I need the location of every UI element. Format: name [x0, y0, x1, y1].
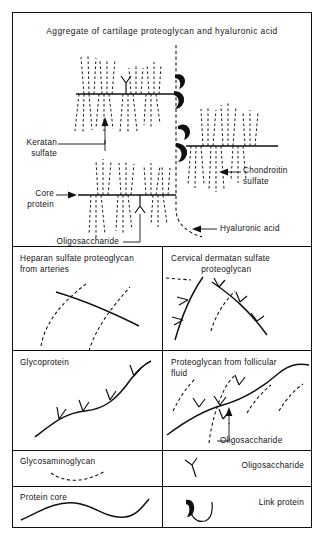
chondroitin-sulfate-arrowhead — [219, 169, 228, 176]
protein-core-line — [175, 277, 203, 340]
panel-legend-row-1: Glycosaminoglycan Oligosaccharide — [13, 450, 311, 486]
oligosaccharide-leader — [123, 214, 140, 242]
oligosaccharide-branches — [193, 375, 245, 419]
panel-row-middle-2: Glycoprotein Proteoglycan from follicula… — [13, 350, 311, 450]
label-core-protein: Core protein — [13, 189, 54, 210]
link-protein-icon — [178, 124, 190, 140]
protein-core-line — [212, 282, 267, 335]
solid-wavy-line-symbol — [21, 499, 149, 520]
hyaluronic-acid-strand — [176, 45, 202, 237]
glycosaminoglycan-chain — [166, 278, 191, 280]
label-hyaluronic-acid: Hyaluronic acid — [220, 224, 300, 235]
label-chondroitin-sulfate: Chondroitin sulfate — [243, 166, 313, 187]
panel-heparan-sulfate-proteoglycan: Heparan sulfate proteoglycan from arteri… — [13, 247, 162, 350]
legend-symbol-glycosaminoglycan — [13, 451, 162, 486]
glycosaminoglycan-chains — [173, 375, 303, 443]
aggregate-diagram — [13, 13, 311, 244]
hyaluronic-acid-arrowhead — [192, 226, 201, 233]
panel-aggregate: Aggregate of cartilage proteoglycan and … — [13, 13, 311, 246]
panel-cervical-dermatan-sulfate-proteoglycan: Cervical dermatan sulfate proteoglycan — [162, 247, 311, 350]
link-protein-icon — [176, 143, 187, 162]
legend-oligosaccharide: Oligosaccharide — [162, 451, 311, 486]
legend-link-protein: Link protein — [162, 487, 311, 527]
legend-symbol-protein-core — [13, 487, 162, 527]
oligosaccharide-y-lower — [135, 195, 145, 213]
legend-symbol-link-protein — [163, 487, 311, 527]
y-branch-symbol — [185, 458, 197, 477]
legend-symbol-oligosaccharide — [163, 451, 311, 486]
callout-oligosaccharide: Oligosaccharide — [220, 436, 300, 447]
oligosaccharide-branches — [57, 365, 141, 419]
panel-proteoglycan-follicular-fluid: Proteoglycan from follicular fluid — [162, 351, 311, 450]
panel-glycoprotein: Glycoprotein — [13, 351, 162, 450]
oligosaccharide-arrowhead — [226, 407, 233, 416]
chondroitin-sulfate-chains-right-lower — [188, 146, 246, 192]
protein-core-line — [35, 361, 151, 437]
chondroitin-sulfate-chains-lower-lower — [89, 195, 167, 238]
dashed-curve-symbol — [51, 471, 105, 480]
panel-row-middle-1: Heparan sulfate proteoglycan from arteri… — [13, 246, 311, 350]
heparan-sulfate-drawing — [13, 247, 162, 350]
keratan-sulfate-leader — [58, 126, 105, 144]
panel-legend-row-2: Protein core Link protein — [13, 486, 311, 527]
legend-protein-core: Protein core — [13, 487, 162, 527]
keratan-sulfate-arrowhead — [102, 117, 109, 126]
core-protein-arrowhead — [68, 192, 77, 199]
glycosaminoglycan-chain — [41, 284, 86, 346]
glycoprotein-drawing — [13, 351, 162, 450]
legend-glycosaminoglycan: Glycosaminoglycan — [13, 451, 162, 486]
chondroitin-sulfate-chains-lower-upper — [96, 159, 170, 195]
protein-core-line — [56, 292, 139, 326]
keratan-sulfate-chains-upper-lower — [75, 94, 160, 134]
figure-container: Aggregate of cartilage proteoglycan and … — [12, 12, 312, 528]
link-protein-blob — [186, 500, 194, 517]
oligosaccharide-branches — [172, 278, 264, 325]
cervical-dermatan-drawing — [163, 247, 311, 350]
keratan-sulfate-chains-upper — [81, 56, 161, 94]
protein-core-line — [167, 364, 309, 435]
oligosaccharide-y-upper — [121, 76, 131, 94]
chondroitin-sulfate-chains-right-upper — [201, 103, 258, 146]
label-keratan-sulfate: Keratan sulfate — [13, 138, 57, 159]
